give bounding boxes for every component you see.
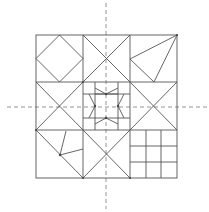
cell-x-top (83, 35, 130, 82)
cell-x-bottom (83, 130, 130, 178)
quilt-diagram (0, 0, 209, 212)
cell-star-grid (83, 82, 130, 130)
cell-diamond (36, 35, 83, 82)
cell-kite (130, 35, 177, 82)
cell-diagonal-bent (36, 130, 83, 178)
cell-3x3-grid (130, 130, 177, 178)
cell-x-left (36, 82, 83, 130)
cell-x-right (130, 82, 177, 130)
vertex-dots (35, 34, 178, 179)
outer-square (36, 35, 177, 178)
